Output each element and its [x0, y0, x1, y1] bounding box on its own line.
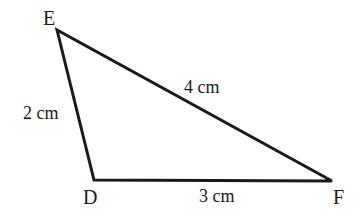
vertex-label-e: E: [43, 8, 55, 28]
side-length-label-df: 3 cm: [199, 187, 235, 205]
triangle-outline: [57, 30, 332, 181]
side-length-label-ef: 4 cm: [184, 78, 220, 96]
vertex-label-d: D: [83, 187, 97, 207]
vertex-label-f: F: [333, 187, 344, 207]
side-length-label-ed: 2 cm: [23, 104, 59, 122]
triangle-figure: E D F 2 cm 4 cm 3 cm: [0, 0, 364, 224]
